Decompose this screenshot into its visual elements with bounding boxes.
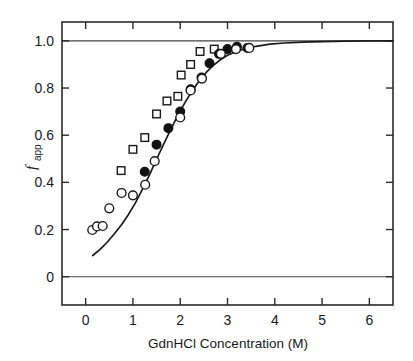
x-tick-label: 0 [82, 312, 90, 328]
series-open-circles [88, 44, 254, 235]
scatter-plot: 0123456 00.20.40.60.81.0 GdnHCl Concentr… [0, 0, 413, 361]
y-axis-title-subscript: app [32, 144, 43, 161]
data-point-open-circle [176, 113, 185, 122]
y-axis-title: f app [23, 144, 43, 170]
y-tick-label: 0.8 [35, 80, 55, 96]
data-point-open-square [153, 110, 161, 118]
x-tick-label: 4 [271, 312, 279, 328]
data-point-open-circle [245, 44, 254, 53]
data-point-filled-circle [140, 167, 149, 176]
data-point-open-square [177, 71, 185, 79]
data-point-open-circle [98, 222, 107, 231]
data-point-filled-circle [205, 59, 214, 68]
series-open-squares [117, 45, 218, 174]
fit-curve-group [93, 41, 393, 256]
x-tick-label: 5 [318, 312, 326, 328]
x-tick-label: 1 [129, 312, 137, 328]
x-axis-title-label: GdnHCl Concentration (M) [148, 336, 308, 351]
axis-ticks-group [62, 22, 393, 305]
data-point-open-circle [141, 180, 150, 189]
y-tick-label: 1.0 [35, 33, 55, 49]
x-tick-label: 2 [176, 312, 184, 328]
data-point-open-square [129, 146, 137, 154]
data-point-open-circle [186, 86, 195, 95]
data-point-open-circle [216, 49, 225, 58]
data-point-open-circle [232, 45, 241, 54]
series-filled-circles [140, 42, 251, 176]
data-point-open-square [187, 61, 195, 69]
data-point-open-circle [105, 204, 114, 213]
data-point-open-square [163, 97, 171, 105]
axis-frame-rect [62, 22, 393, 305]
data-point-open-square [196, 48, 204, 56]
sigmoidal-fit [93, 41, 393, 256]
y-tick-label: 0.2 [35, 222, 55, 238]
data-point-filled-circle [164, 124, 173, 133]
data-point-open-circle [150, 157, 159, 166]
x-tick-label: 6 [365, 312, 373, 328]
y-axis-title-label: f [23, 164, 39, 170]
data-point-open-square [174, 92, 182, 100]
y-tick-label: 0.4 [35, 174, 55, 190]
data-point-open-square [141, 134, 149, 142]
axis-frame [62, 22, 393, 305]
data-point-open-circle [129, 191, 138, 200]
y-tick-label: 0.6 [35, 127, 55, 143]
reference-lines-group [62, 41, 393, 277]
data-point-open-square [117, 167, 125, 175]
y-tick-label: 0 [46, 269, 54, 285]
x-tick-label: 3 [224, 312, 232, 328]
x-axis-title: GdnHCl Concentration (M) [148, 336, 308, 351]
data-series-group [88, 42, 254, 234]
data-point-open-circle [198, 74, 207, 83]
x-tick-labels-group: 0123456 [82, 312, 374, 328]
data-point-filled-circle [152, 140, 161, 149]
figure-container: 0123456 00.20.40.60.81.0 GdnHCl Concentr… [0, 0, 413, 361]
data-point-open-circle [117, 189, 126, 198]
